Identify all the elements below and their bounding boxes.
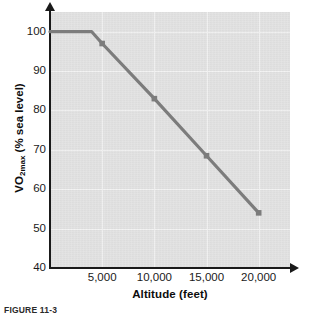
figure-container: 405060708090100 5,00010,00015,00020,000 …: [0, 0, 310, 315]
x-axis-title: Altitude (feet): [50, 288, 290, 300]
y-axis-title: VO2max (% sea level): [13, 43, 25, 233]
vo2max-line: [50, 32, 259, 213]
figure-caption: FIGURE 11-3: [4, 305, 57, 315]
data-point-marker: [204, 153, 210, 159]
data-point-marker: [99, 41, 105, 47]
data-point-marker: [152, 96, 158, 102]
data-point-marker: [256, 210, 262, 216]
data-series: [0, 0, 310, 315]
y-axis-title-subscript: 2max: [18, 156, 27, 176]
y-axis-title-pre: VO: [13, 176, 25, 193]
y-axis-title-post: (% sea level): [13, 83, 25, 155]
